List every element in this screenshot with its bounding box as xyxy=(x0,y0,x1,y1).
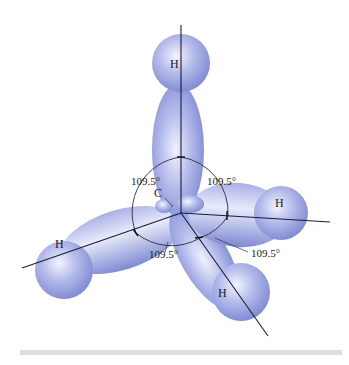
hydrogen-label-right: H xyxy=(275,196,284,210)
angle-label-lower-center: 109.5° xyxy=(149,248,178,260)
hydrogen-label-left: H xyxy=(55,237,64,251)
hydrogen-label-top: H xyxy=(170,57,179,71)
orbital-back-lobe-left xyxy=(155,199,173,213)
hydrogen-sphere-right xyxy=(254,186,308,240)
hydrogen-sphere-left xyxy=(35,241,93,299)
carbon-label: C xyxy=(154,186,162,200)
caption-divider xyxy=(20,350,342,355)
angle-label-lower-right: 109.5° xyxy=(251,247,280,259)
orbital-back-lobe-right xyxy=(176,195,204,213)
angle-label-upper-left: 109.5° xyxy=(131,175,160,187)
angle-label-upper-right: 109.5° xyxy=(207,175,236,187)
tetrahedral-orbital-diagram: H H H H C 109.5° 109.5° 109.5° 109.5° xyxy=(0,0,349,365)
hydrogen-label-bottom-right: H xyxy=(218,286,227,300)
